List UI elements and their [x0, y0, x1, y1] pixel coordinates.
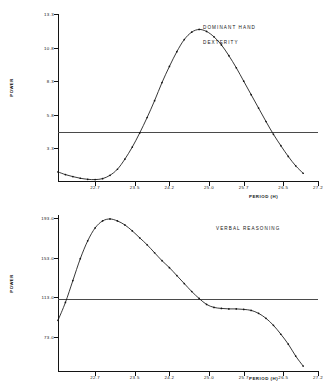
x-tick-label: 24.2 — [164, 185, 174, 190]
plot-area-bottom: 193.0153.0113.073.022.723.524.225.025.72… — [58, 215, 318, 372]
y-tick-label: 13.3 — [44, 12, 54, 17]
chart-annotation-title-top: DOMINANT HAND — [203, 25, 256, 30]
x-tick-label: 25.7 — [239, 185, 249, 190]
x-tick-label: 26.5 — [278, 375, 288, 380]
y-tick-label: 153.0 — [41, 255, 54, 260]
y-tick-mark — [54, 218, 59, 219]
x-tick-label: 27.2 — [313, 185, 323, 190]
x-tick-label: 27.2 — [313, 375, 323, 380]
plot-area-top: 13.310.88.35.83.322.723.524.225.025.726.… — [58, 14, 318, 182]
power-spectrum-curve-bottom — [58, 215, 318, 372]
chart-annotation-subtitle-top: DEXTERITY — [203, 40, 239, 45]
x-tick-label: 22.7 — [90, 185, 100, 190]
y-axis-title-bottom: POWER — [9, 274, 14, 292]
x-tick-label: 25.0 — [204, 185, 214, 190]
y-tick-label: 3.3 — [47, 146, 54, 151]
x-tick-label: 26.5 — [278, 185, 288, 190]
y-tick-mark — [54, 48, 59, 49]
y-tick-label: 10.8 — [44, 45, 54, 50]
chart-panel-dominant-hand-dexterity: POWER 13.310.88.35.83.322.723.524.225.02… — [0, 0, 327, 194]
y-tick-mark — [54, 337, 59, 338]
y-tick-mark — [54, 297, 59, 298]
power-spectrum-curve-top — [58, 14, 318, 182]
x-tick-label: 24.2 — [164, 375, 174, 380]
y-tick-label: 5.8 — [47, 112, 54, 117]
y-tick-label: 193.0 — [41, 215, 54, 220]
x-tick-label: 23.5 — [130, 375, 140, 380]
y-tick-mark — [54, 14, 59, 15]
y-axis-title-top: POWER — [9, 78, 14, 96]
figure-sheet: POWER 13.310.88.35.83.322.723.524.225.02… — [0, 0, 327, 389]
x-axis-title-bottom: PERIOD (H) — [249, 376, 278, 381]
x-tick-label: 23.5 — [130, 185, 140, 190]
y-tick-mark — [54, 258, 59, 259]
x-tick-label: 25.0 — [204, 375, 214, 380]
chart-annotation-title-bottom: VERBAL REASONING — [216, 226, 280, 231]
x-tick-label: 25.7 — [239, 375, 249, 380]
y-tick-mark — [54, 148, 59, 149]
y-tick-label: 8.3 — [47, 79, 54, 84]
y-tick-mark — [54, 115, 59, 116]
y-tick-mark — [54, 81, 59, 82]
y-tick-label: 113.0 — [42, 295, 54, 300]
x-tick-label: 22.7 — [90, 375, 100, 380]
y-tick-label: 73.0 — [44, 335, 54, 340]
chart-panel-verbal-reasoning: POWER 193.0153.0113.073.022.723.524.225.… — [0, 195, 327, 389]
